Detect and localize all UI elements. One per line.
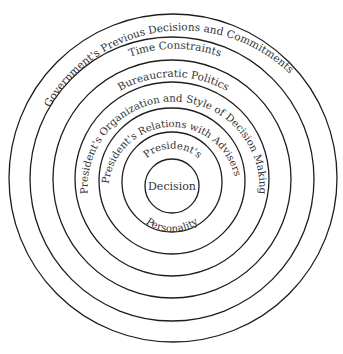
label-decision: Decision [148,180,196,193]
concentric-diagram: Government's Previous Decisions and Comm… [0,0,343,354]
label-personality: Personality [144,215,200,233]
label-presidents: President's [141,140,204,160]
label-bureaucratic-politics: Bureaucratic Politics [116,67,232,93]
